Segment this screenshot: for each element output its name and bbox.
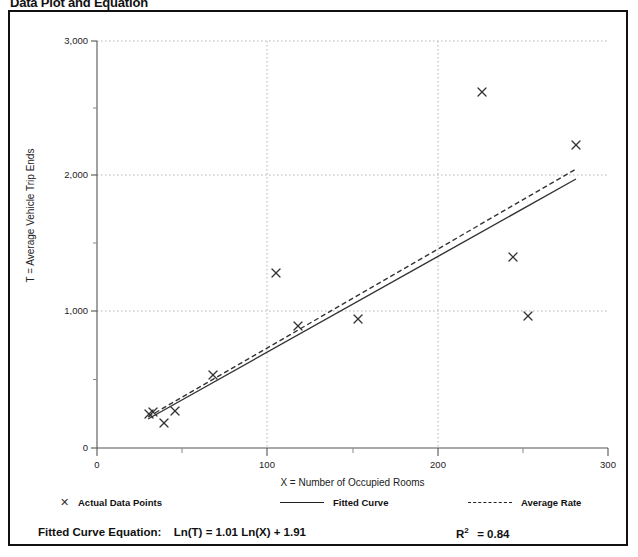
equation-prefix: Fitted Curve Equation: [38,526,161,538]
r-squared-value: R2 = 0.84 [456,526,509,540]
dashed-line-icon [468,502,512,503]
legend-label: Average Rate [521,497,581,508]
equation-formula: Ln(T) = 1.01 Ln(X) + 1.91 [174,526,306,538]
legend-item-actual-data-points: ✕ Actual Data Points [60,497,162,508]
r-squared-exponent: 2 [464,526,468,535]
page-title: Data Plot and Equation [10,0,148,10]
y-tick-label: 1,000 [52,305,88,316]
x-axis-label: X = Number of Occupied Rooms [97,477,608,488]
x-marker-icon: ✕ [60,497,69,508]
r-squared-number: = 0.84 [477,528,509,540]
legend-label: Fitted Curve [333,497,388,508]
y-tick-label: 2,000 [52,169,88,180]
fitted-curve-equation: Fitted Curve Equation: Ln(T) = 1.01 Ln(X… [38,526,306,538]
x-tick-label: 0 [77,459,117,470]
y-axis-label: T = Average Vehicle Trip Ends [25,131,36,301]
legend-label: Actual Data Points [78,497,162,508]
x-tick-label: 200 [418,459,458,470]
solid-line-icon [280,502,324,503]
x-tick-label: 100 [247,459,287,470]
legend-item-average-rate: Average Rate [468,497,581,508]
y-tick-label: 3,000 [52,35,88,46]
x-tick-label: 300 [588,459,628,470]
legend-item-fitted-curve: Fitted Curve [280,497,388,508]
chart-legend: ✕ Actual Data Points Fitted Curve Averag… [8,495,628,519]
y-tick-label: 0 [52,442,88,453]
